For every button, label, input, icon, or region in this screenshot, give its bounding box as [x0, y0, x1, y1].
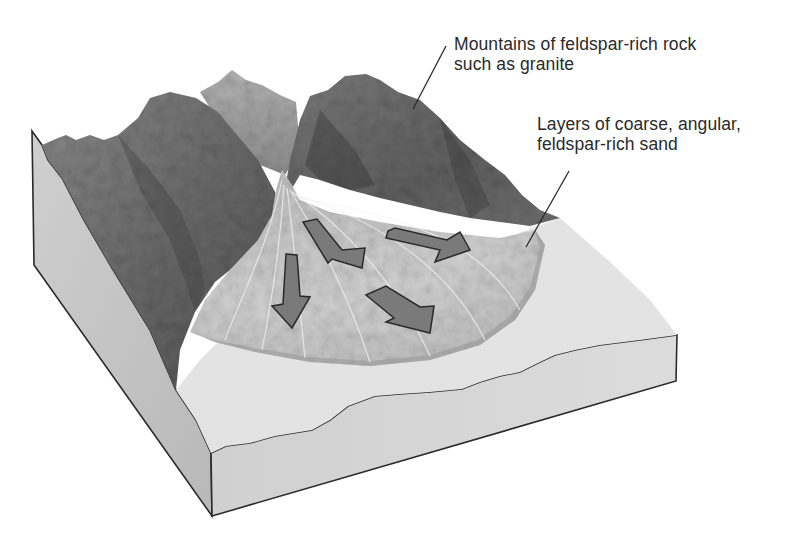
alluvial-fan-block-diagram	[0, 0, 795, 536]
leader-line-mountains	[413, 46, 446, 109]
label-mountains: Mountains of feldspar-rich rock such as …	[454, 34, 696, 74]
label-mountains-line-2: such as granite	[454, 54, 696, 74]
label-sand-line-1: Layers of coarse, angular,	[537, 114, 741, 134]
label-mountains-line-1: Mountains of feldspar-rich rock	[454, 34, 696, 54]
label-sand-line-2: feldspar-rich sand	[537, 134, 741, 154]
label-sand: Layers of coarse, angular, feldspar-rich…	[537, 114, 741, 154]
